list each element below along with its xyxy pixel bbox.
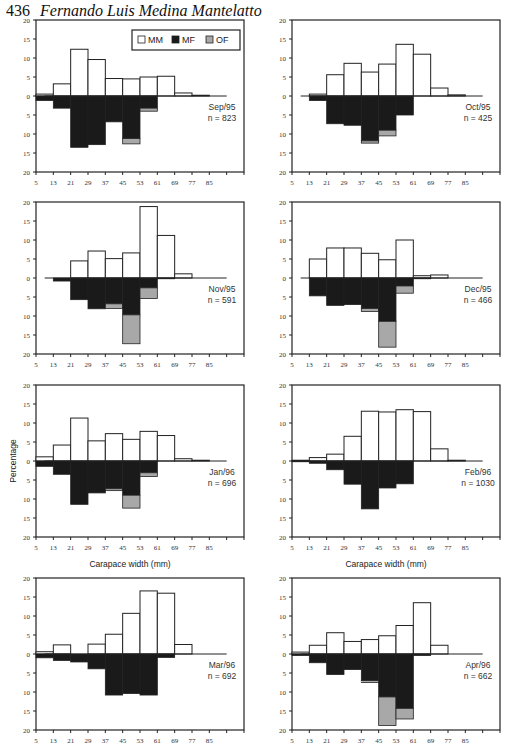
y-tick-label: 5 [283, 670, 287, 678]
x-tick-label: 13 [50, 544, 58, 552]
x-tick-label: 53 [393, 179, 401, 187]
x-tick-label: 21 [323, 361, 331, 369]
y-tick-label: 10 [279, 496, 287, 504]
y-tick-label: 20 [279, 199, 287, 207]
x-tick-label: 13 [306, 179, 314, 187]
bar-mm [431, 449, 448, 461]
x-axis-label: Carapace width (mm) [345, 559, 426, 569]
sample-size: n = 823 [208, 113, 237, 123]
x-tick-label: 5 [34, 361, 38, 369]
bar-mf [327, 96, 344, 124]
bar-mm [157, 76, 174, 96]
x-tick-label: 29 [85, 179, 93, 187]
x-tick-label: 85 [206, 544, 214, 552]
x-tick-label: 5 [290, 179, 294, 187]
month-label: Oct/95 [465, 102, 490, 112]
bar-mf [140, 654, 157, 695]
y-tick-label: 15 [23, 515, 31, 523]
y-tick-label: 0 [27, 275, 31, 283]
y-tick-label: 5 [27, 439, 31, 447]
bar-mm [157, 235, 174, 278]
sample-size: n = 696 [208, 478, 237, 488]
y-tick-label: 20 [279, 534, 287, 542]
x-tick-label: 61 [410, 361, 418, 369]
month-label: Jan/96 [209, 467, 235, 477]
y-tick-label: 20 [23, 17, 31, 25]
bar-mm [36, 457, 53, 461]
x-tick-label: 37 [102, 361, 110, 369]
x-tick-label: 29 [85, 361, 93, 369]
bar-mf [105, 278, 122, 304]
x-tick-label: 69 [171, 179, 179, 187]
legend-swatch-mm [138, 36, 145, 43]
sample-size: n = 662 [464, 671, 493, 681]
bar-mm [88, 441, 105, 461]
y-tick-label: 20 [23, 534, 31, 542]
bar-mm [309, 458, 326, 461]
bar-mf [88, 96, 105, 145]
y-tick-label: 10 [279, 237, 287, 245]
y-tick-label: 20 [279, 575, 287, 583]
bar-mm [431, 88, 448, 96]
bar-mf [361, 96, 378, 141]
month-label: Mar/96 [209, 660, 236, 670]
bar-mf [309, 96, 326, 101]
bar-mf [71, 654, 88, 662]
y-tick-label: 5 [27, 112, 31, 120]
x-tick-label: 53 [393, 361, 401, 369]
x-tick-label: 5 [34, 737, 38, 744]
x-axis-label: Carapace width (mm) [89, 559, 170, 569]
x-tick-label: 85 [206, 361, 214, 369]
sample-size: n = 466 [464, 295, 493, 305]
month-label: Apr/96 [465, 660, 490, 670]
bar-mf [379, 461, 396, 488]
bar-mf [53, 96, 70, 108]
chart-panel-feb-96: 201510505101520513212937455361697785Feb/… [266, 381, 513, 573]
x-tick-label: 21 [67, 361, 75, 369]
x-tick-label: 5 [34, 179, 38, 187]
x-tick-label: 77 [189, 179, 197, 187]
x-tick-label: 85 [462, 737, 470, 744]
month-label: Nov/95 [209, 284, 236, 294]
bar-of [123, 495, 140, 508]
bar-mm [413, 54, 430, 96]
x-tick-label: 69 [171, 361, 179, 369]
y-tick-label: 0 [283, 93, 287, 101]
y-tick-label: 5 [283, 439, 287, 447]
bar-of [140, 108, 157, 111]
y-tick-label: 10 [279, 420, 287, 428]
y-tick-label: 15 [279, 36, 287, 44]
y-tick-label: 20 [23, 727, 31, 735]
x-tick-label: 61 [154, 737, 162, 744]
x-tick-label: 37 [102, 737, 110, 744]
bar-of [105, 304, 122, 309]
x-tick-label: 69 [427, 544, 435, 552]
bar-mf [88, 654, 105, 669]
y-tick-label: 20 [23, 382, 31, 390]
bar-mm [413, 412, 430, 461]
bar-of [396, 286, 413, 293]
bar-mf [123, 654, 140, 694]
x-tick-label: 37 [102, 544, 110, 552]
bar-mm [309, 645, 326, 654]
x-tick-label: 77 [189, 361, 197, 369]
bar-mm [105, 634, 122, 654]
bar-of [140, 288, 157, 299]
bar-mm [123, 613, 140, 654]
x-tick-label: 29 [341, 361, 349, 369]
y-tick-label: 5 [27, 632, 31, 640]
bar-of [379, 321, 396, 347]
chart-panel-oct-95: 201510505101520513212937455361697785Oct/… [266, 16, 513, 208]
x-tick-label: 21 [323, 737, 331, 744]
sample-size: n = 1030 [461, 478, 495, 488]
x-tick-label: 45 [375, 361, 383, 369]
bar-mf [344, 461, 361, 484]
y-tick-label: 15 [23, 708, 31, 716]
x-tick-label: 37 [358, 737, 366, 744]
bar-mm [396, 626, 413, 655]
y-tick-label: 5 [283, 112, 287, 120]
x-tick-label: 61 [410, 737, 418, 744]
y-tick-label: 10 [23, 420, 31, 428]
chart-panel-nov-95: 201510505101520513212937455361697785Nov/… [10, 198, 258, 390]
y-tick-label: 0 [283, 651, 287, 659]
